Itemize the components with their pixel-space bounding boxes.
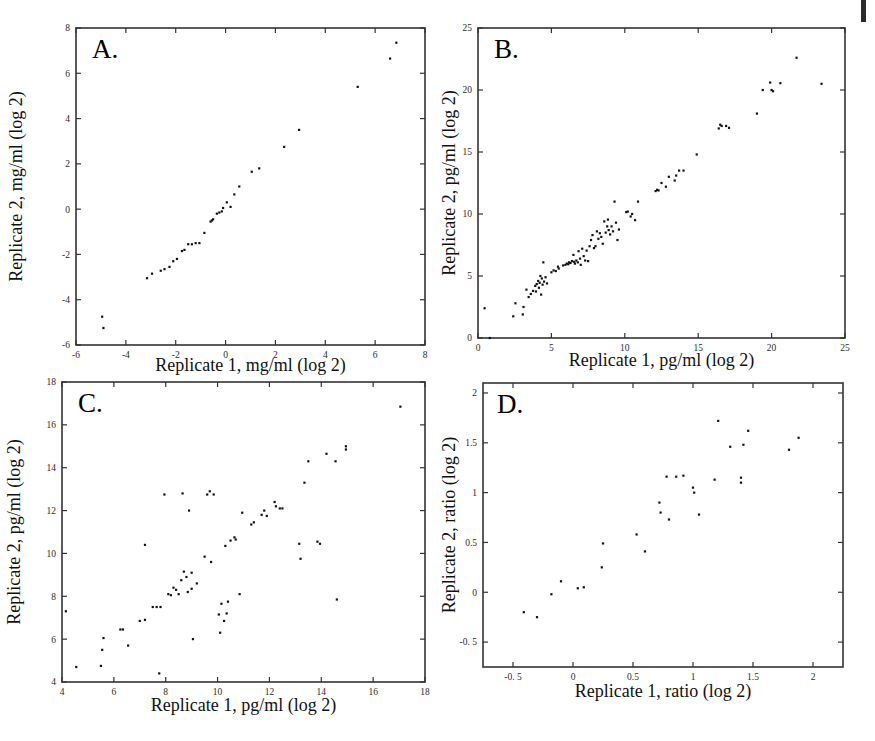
data-point bbox=[170, 594, 172, 596]
data-point bbox=[191, 243, 193, 245]
data-point bbox=[599, 232, 601, 234]
data-point bbox=[144, 544, 146, 546]
data-point bbox=[630, 215, 632, 217]
x-tick-label: 20 bbox=[767, 343, 777, 353]
x-tick-label: 6 bbox=[111, 687, 116, 697]
data-point bbox=[618, 228, 620, 230]
data-point bbox=[281, 507, 283, 509]
data-point bbox=[660, 511, 662, 513]
y-tick-label: -4 bbox=[62, 295, 70, 305]
data-point bbox=[187, 243, 189, 245]
x-tick-label: 5 bbox=[549, 343, 554, 353]
data-point bbox=[336, 598, 338, 600]
data-point bbox=[747, 430, 749, 432]
data-point bbox=[75, 666, 77, 668]
data-point bbox=[577, 261, 579, 263]
data-point bbox=[238, 185, 240, 187]
data-point bbox=[101, 316, 103, 318]
data-point bbox=[538, 287, 540, 289]
data-point bbox=[562, 264, 564, 266]
panel-d-plot: -0. 500.511.52-0. 500.511.52D.Replicate … bbox=[435, 370, 875, 741]
data-point bbox=[779, 82, 781, 84]
data-point bbox=[675, 174, 677, 176]
data-point bbox=[263, 509, 265, 511]
data-point bbox=[345, 448, 347, 450]
x-axis-title: Replicate 1, ratio (log 2) bbox=[575, 681, 751, 702]
data-point bbox=[183, 249, 185, 251]
panel-letter: B. bbox=[494, 34, 519, 64]
data-point bbox=[185, 576, 187, 578]
data-point bbox=[536, 616, 538, 618]
data-point bbox=[167, 593, 169, 595]
x-tick-label: 0 bbox=[476, 343, 481, 353]
plot-frame bbox=[76, 28, 425, 345]
data-point bbox=[484, 307, 486, 309]
y-tick-label: 18 bbox=[47, 377, 57, 387]
data-point bbox=[175, 589, 177, 591]
data-point bbox=[159, 606, 161, 608]
panel-a: -6-4-202468-6-4-202468A.Replicate 1, mg/… bbox=[0, 0, 440, 380]
data-point bbox=[587, 260, 589, 262]
data-point bbox=[714, 479, 716, 481]
data-point bbox=[279, 507, 281, 509]
y-tick-label: 10 bbox=[47, 549, 57, 559]
data-point bbox=[606, 225, 608, 227]
data-point bbox=[798, 437, 800, 439]
data-point bbox=[163, 493, 165, 495]
data-point bbox=[389, 57, 391, 59]
data-point-group bbox=[65, 406, 402, 675]
data-point bbox=[127, 644, 129, 646]
x-axis-title: Replicate 1, pg/ml (log 2) bbox=[569, 350, 754, 371]
data-point bbox=[219, 632, 221, 634]
data-point bbox=[239, 593, 241, 595]
y-tick-label: -6 bbox=[62, 340, 70, 350]
data-point bbox=[665, 186, 667, 188]
data-point bbox=[577, 587, 579, 589]
data-point bbox=[226, 201, 228, 203]
y-tick-label: 8 bbox=[65, 23, 70, 33]
data-point bbox=[172, 587, 174, 589]
data-point bbox=[299, 558, 301, 560]
x-tick-label: 4 bbox=[60, 687, 65, 697]
data-point bbox=[144, 619, 146, 621]
data-point bbox=[729, 446, 731, 448]
data-point bbox=[512, 315, 514, 317]
data-point bbox=[522, 313, 524, 315]
y-tick-label: 6 bbox=[65, 69, 70, 79]
x-tick-label: 2 bbox=[811, 672, 816, 682]
data-point bbox=[528, 296, 530, 298]
y-tick-label: 0 bbox=[65, 205, 70, 215]
y-tick-label: 8 bbox=[51, 592, 56, 602]
data-point bbox=[139, 620, 141, 622]
y-tick-label: 4 bbox=[51, 677, 56, 687]
data-point bbox=[172, 260, 174, 262]
data-point bbox=[692, 487, 694, 489]
data-point bbox=[574, 263, 576, 265]
data-point bbox=[740, 482, 742, 484]
data-point bbox=[717, 420, 719, 422]
data-point bbox=[298, 129, 300, 131]
y-tick-label: 4 bbox=[65, 114, 70, 124]
data-point bbox=[682, 475, 684, 477]
data-point bbox=[602, 542, 604, 544]
data-point bbox=[539, 275, 541, 277]
panel-c-plot: 46810121416184681012141618C.Replicate 1,… bbox=[0, 370, 440, 741]
data-point bbox=[319, 543, 321, 545]
data-point bbox=[146, 277, 148, 279]
data-point bbox=[213, 493, 215, 495]
data-point bbox=[600, 236, 602, 238]
data-point bbox=[536, 283, 538, 285]
y-tick-label: 6 bbox=[51, 635, 56, 645]
data-point bbox=[820, 83, 822, 85]
data-point bbox=[541, 284, 543, 286]
data-point bbox=[540, 294, 542, 296]
data-point bbox=[530, 293, 532, 295]
data-point bbox=[188, 509, 190, 511]
data-point bbox=[100, 665, 102, 667]
data-point bbox=[616, 239, 618, 241]
data-point bbox=[216, 213, 218, 215]
data-point bbox=[594, 245, 596, 247]
data-point bbox=[253, 521, 255, 523]
panel-b: 05101520250510152025B.Replicate 1, pg/ml… bbox=[435, 0, 875, 380]
data-point bbox=[795, 57, 797, 59]
